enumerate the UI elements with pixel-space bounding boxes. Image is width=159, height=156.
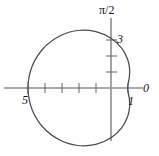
tick-label-r-three: 3 — [117, 33, 123, 45]
vertical-axis-label: π/2 — [99, 4, 114, 16]
polar-plot-canvas — [0, 0, 159, 156]
polar-axis-label: 0 — [143, 82, 149, 94]
polar-plot-figure: 0 π/2 1 3 5 — [0, 0, 159, 156]
tick-label-r-one: 1 — [128, 95, 134, 107]
tick-label-r-five: 5 — [22, 94, 28, 106]
